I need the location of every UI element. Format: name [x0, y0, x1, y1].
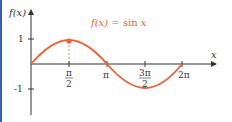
y-tick-label-1: 1	[18, 34, 24, 44]
title-lhs: f(x)	[90, 17, 108, 28]
title-var: x	[141, 17, 147, 28]
x-axis-label: x	[211, 49, 217, 60]
x-tick-label-pi: π	[103, 70, 109, 80]
chart-frame: f(x) x 1 -1 π 2 π 3π 2 2π f(x) = sin x	[0, 0, 232, 122]
y-tick-label-neg1: -1	[14, 84, 23, 94]
max-point	[66, 38, 71, 43]
sine-chart: f(x) x 1 -1 π 2 π 3π 2 2π f(x) = sin x	[0, 0, 232, 122]
x-tick-label-pi-half-den: 2	[66, 79, 72, 89]
x-tick-label-pi-half-num: π	[66, 68, 72, 78]
x-tick-label-3pi-half-den: 2	[142, 79, 148, 89]
x-tick-label-3pi-half-num: 3π	[139, 68, 151, 78]
x-tick-label-2pi: 2π	[178, 70, 190, 80]
chart-title: f(x) = sin x	[90, 17, 147, 28]
y-axis-label: f(x)	[8, 7, 26, 18]
title-eq: = sin	[108, 17, 141, 28]
